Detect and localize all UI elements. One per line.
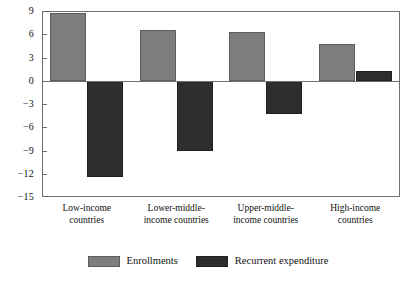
y-axis-tick-mark (42, 151, 47, 152)
x-axis-label-line: income countries (221, 215, 311, 227)
y-axis-tick-label: 0 (0, 76, 34, 86)
y-axis-tick-value: −9 (4, 146, 34, 156)
y-axis-tick-label: −12 (0, 169, 34, 179)
y-axis-tick-label: 6 (0, 29, 34, 39)
x-axis-label-line: Lower-middle- (132, 203, 222, 215)
bar-expenditure (87, 81, 123, 177)
y-axis-tick-mark (42, 58, 47, 59)
legend-swatch-icon-enrollments (88, 256, 120, 267)
legend-entry-enrollments: Enrollments (88, 255, 178, 267)
y-axis-tick-mark (42, 34, 47, 35)
bar-enrollments (319, 44, 355, 80)
x-axis-label-line: Low-income (42, 203, 132, 215)
x-axis-label-group: Upper-middle-income countries (221, 203, 311, 226)
y-axis-tick-label: 3 (0, 53, 34, 63)
y-axis-tick-value: 3 (4, 53, 34, 63)
chart-legend: Enrollments Recurrent expenditure (0, 255, 416, 267)
y-axis-tick-value: −15 (4, 192, 34, 202)
zero-baseline (42, 81, 400, 82)
x-axis-label-line: income countries (132, 215, 222, 227)
legend-label-enrollments: Enrollments (127, 255, 178, 267)
y-axis-tick-value: −12 (4, 169, 34, 179)
y-axis-tick-label: −9 (0, 146, 34, 156)
bar-expenditure (266, 81, 302, 114)
x-axis-label-group: Lower-middle-income countries (132, 203, 222, 226)
bar-enrollments (50, 13, 86, 80)
x-axis-label-group: Low-incomecountries (42, 203, 132, 226)
x-axis-label-line: countries (311, 215, 401, 227)
y-axis-tick-label: −3 (0, 99, 34, 109)
bar-expenditure (356, 71, 392, 81)
x-axis-label-line: High-income (311, 203, 401, 215)
y-axis-tick-label: −6 (0, 122, 34, 132)
bar-enrollments (140, 30, 176, 81)
y-axis-tick-label: −15 (0, 192, 34, 202)
x-axis-label-line: countries (42, 215, 132, 227)
y-axis-tick-value: 6 (4, 29, 34, 39)
legend-swatch-icon-recurrent-expenditure (196, 256, 228, 267)
x-axis-label-line: Upper-middle- (221, 203, 311, 215)
chart-container: 9630−3−6−9−12−15 Low-incomecountriesLowe… (0, 0, 416, 288)
y-axis-tick-mark (42, 104, 47, 105)
y-axis-tick-value: 0 (4, 76, 34, 86)
y-axis-tick-label: 9 (0, 6, 34, 16)
y-axis-tick-value: 9 (4, 6, 34, 16)
x-axis-label-group: High-incomecountries (311, 203, 401, 226)
bar-expenditure (177, 81, 213, 152)
bar-enrollments (229, 32, 265, 81)
y-axis-tick-value: −3 (4, 99, 34, 109)
y-axis-tick-mark (42, 174, 47, 175)
legend-entry-recurrent-expenditure: Recurrent expenditure (196, 255, 329, 267)
legend-label-recurrent-expenditure: Recurrent expenditure (235, 255, 329, 267)
y-axis-tick-value: −6 (4, 122, 34, 132)
y-axis-tick-mark (42, 127, 47, 128)
